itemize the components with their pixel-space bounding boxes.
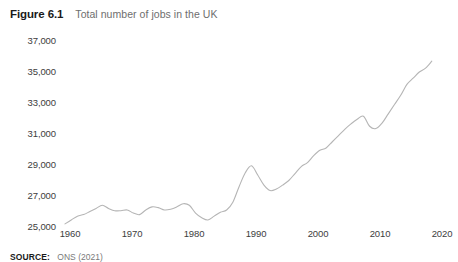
x-tick-label: 2020 [432,228,453,239]
figure-root: Figure 6.1 Total number of jobs in the U… [0,0,458,262]
y-axis-labels: 37,000 35,000 33,000 31,000 29,000 27,00… [10,26,56,238]
figure-number: Figure 6.1 [10,8,63,20]
y-tick-label: 29,000 [10,160,56,170]
x-tick-label: 1970 [122,228,143,239]
y-tick-label: 35,000 [10,67,56,77]
source-text: ONS (2021) [57,252,102,262]
x-tick-label: 2000 [308,228,329,239]
line-chart-svg [0,26,458,238]
figure-title: Total number of jobs in the UK [75,8,217,20]
y-tick-label: 37,000 [10,36,56,46]
source-line: SOURCE: ONS (2021) [10,246,103,262]
x-tick-label: 1990 [246,228,267,239]
x-tick-label: 1960 [60,228,81,239]
x-axis-labels: 1960 1970 1980 1990 2000 2010 2020 [0,228,458,242]
x-tick-label: 1980 [184,228,205,239]
series-line-total-jobs [65,61,432,224]
y-tick-label: 27,000 [10,191,56,201]
source-label: SOURCE: [10,252,50,262]
y-tick-label: 33,000 [10,98,56,108]
y-tick-label: 31,000 [10,129,56,139]
chart-plot-area: 37,000 35,000 33,000 31,000 29,000 27,00… [0,26,458,238]
figure-header: Figure 6.1 Total number of jobs in the U… [10,8,218,20]
x-tick-label: 2010 [370,228,391,239]
